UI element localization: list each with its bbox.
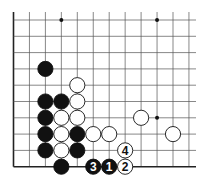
move-number: 2 — [122, 160, 129, 174]
move-number: 3 — [90, 160, 97, 174]
black-stone — [38, 110, 53, 125]
black-stone — [54, 94, 69, 109]
black-stone — [70, 143, 85, 158]
black-stone: 1 — [102, 159, 117, 174]
move-number: 1 — [106, 160, 113, 174]
star-point — [155, 116, 159, 120]
move-number: 4 — [122, 144, 129, 158]
white-stone — [70, 110, 85, 125]
go-board: 4312 — [0, 0, 206, 188]
white-stone — [134, 110, 149, 125]
board-grid — [14, 12, 197, 167]
white-stone — [54, 143, 69, 158]
black-stone — [38, 143, 53, 158]
white-stone — [70, 94, 85, 109]
black-stone — [70, 127, 85, 142]
white-stone — [54, 110, 69, 125]
white-stone: 2 — [118, 159, 133, 174]
white-stone — [86, 127, 101, 142]
black-stone — [38, 127, 53, 142]
white-stone — [70, 78, 85, 93]
white-stone — [54, 127, 69, 142]
black-stone — [38, 94, 53, 109]
black-stone — [38, 61, 53, 76]
star-point — [155, 18, 159, 22]
black-stone: 3 — [86, 159, 101, 174]
star-point — [59, 18, 63, 22]
white-stone: 4 — [118, 143, 133, 158]
black-stone — [54, 159, 69, 174]
white-stone — [102, 127, 117, 142]
white-stone — [165, 127, 180, 142]
